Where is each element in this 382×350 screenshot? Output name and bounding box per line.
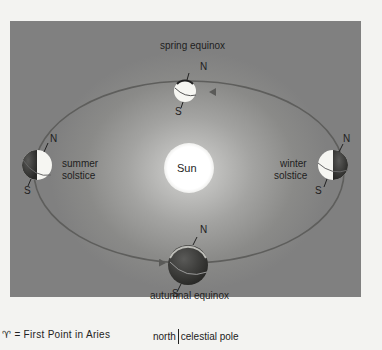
sun-label: Sun: [177, 163, 197, 174]
aries-text: = First Point in Aries: [14, 329, 110, 340]
label-summer-solstice-1: summer: [62, 158, 98, 169]
pole-right-text: celestial pole: [181, 331, 239, 342]
globe-autumnal-equinox: [168, 237, 208, 292]
divider: [178, 329, 179, 344]
globe-summer-solstice: [22, 143, 52, 186]
north-pole-spring: N: [200, 61, 207, 72]
pole-left-text: north: [153, 331, 176, 342]
label-winter-solstice-1: winter: [280, 158, 307, 169]
north-pole-autumn: N: [200, 224, 207, 235]
south-pole-spring: S: [175, 106, 182, 117]
south-pole-autumn: S: [172, 288, 179, 299]
north-pole-summer: N: [50, 133, 57, 144]
label-winter-solstice-2: solstice: [274, 170, 307, 181]
globe-spring-equinox: [174, 73, 196, 108]
celestial-pole-legend: northcelestial pole: [153, 329, 239, 344]
label-spring-equinox: spring equinox: [160, 40, 225, 51]
aries-icon: ♈︎: [2, 329, 11, 340]
north-pole-winter: N: [343, 133, 350, 144]
south-pole-winter: S: [315, 185, 322, 196]
label-autumnal-equinox: autumnal equinox: [150, 290, 229, 301]
label-summer-solstice-2: solstice: [62, 170, 95, 181]
south-pole-summer: S: [24, 185, 31, 196]
aries-legend: ♈︎ = First Point in Aries: [2, 329, 110, 340]
